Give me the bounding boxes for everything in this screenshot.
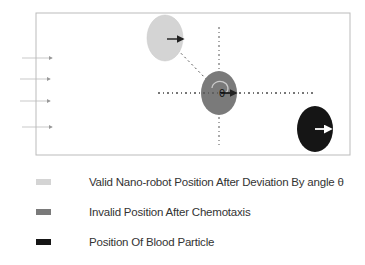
legend-swatch-mid: [36, 209, 51, 215]
legend-swatch-dark: [36, 239, 51, 245]
valid-position-node: [147, 15, 183, 61]
deviation-diagram: θ: [0, 0, 365, 160]
legend-item-valid: Valid Nano-robot Position After Deviatio…: [36, 176, 344, 188]
legend-label: Valid Nano-robot Position After Deviatio…: [89, 176, 344, 188]
legend-swatch-light: [36, 179, 51, 185]
legend-item-blood: Position Of Blood Particle: [36, 236, 214, 248]
legend-label: Invalid Position After Chemotaxis: [89, 206, 251, 218]
legend-item-invalid: Invalid Position After Chemotaxis: [36, 206, 251, 218]
legend-label: Position Of Blood Particle: [89, 236, 214, 248]
blood-particle-node: [297, 106, 333, 152]
